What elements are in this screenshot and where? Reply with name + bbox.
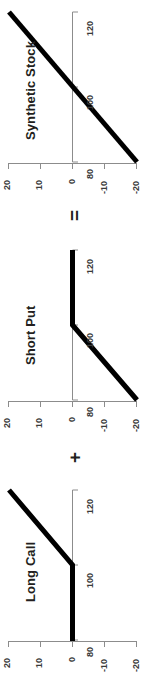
panel-1-price-label-100: 100: [86, 95, 95, 110]
panel-3-series-label: Long Call: [24, 542, 37, 602]
panel-long-call: Long Call 120 100 80 20 10 0 -10 -20: [0, 478, 161, 678]
panel-3-price-label-100: 100: [86, 573, 95, 588]
panel-synthetic-stock: Synthetic Stock 120 100 80 20 10 0 -10 -…: [0, 0, 161, 195]
panel-3-price-label-80: 80: [86, 647, 95, 657]
panel-2-payoff-label-neg10: -10: [100, 419, 109, 432]
panel-3-price-label-120: 120: [86, 499, 95, 514]
panel-2-payoff-label-0: 0: [68, 417, 77, 422]
figure-root: Synthetic Stock 120 100 80 20 10 0 -10 -…: [0, 0, 161, 678]
operator-plus: +: [65, 441, 84, 475]
panel-1-price-label-120: 120: [86, 21, 95, 36]
panel-3-payoff-label-neg20: -20: [132, 659, 141, 672]
panel-2-payoff-label-neg20: -20: [132, 419, 141, 432]
panel-2-series-label: Short Put: [24, 306, 37, 365]
panel-3-payoff-label-20: 20: [3, 658, 12, 668]
panel-short-put: Short Put 120 100 80 20 10 0 -10 -20: [0, 238, 161, 438]
payoff-curve-long-call: [9, 490, 73, 641]
panel-1-payoff-label-10: 10: [35, 180, 44, 190]
panel-1-payoff-label-20: 20: [3, 180, 12, 190]
panel-2-payoff-label-20: 20: [3, 418, 12, 428]
operator-equals: =: [65, 199, 84, 233]
panel-3-payoff-label-10: 10: [35, 658, 44, 668]
panel-3-payoff-label-0: 0: [68, 657, 77, 662]
payoff-curve-short-put: [73, 250, 138, 400]
panel-1-payoff-label-neg20: -20: [132, 181, 141, 194]
panel-2-payoff-label-10: 10: [35, 418, 44, 428]
panel-2-price-label-120: 120: [86, 259, 95, 274]
panel-1-price-label-80: 80: [86, 169, 95, 179]
panel-1-payoff-label-0: 0: [68, 179, 77, 184]
panel-2-price-label-80: 80: [86, 407, 95, 417]
panel-3-payoff-label-neg10: -10: [100, 659, 109, 672]
panel-1-series-label: Synthetic Stock: [24, 41, 37, 140]
panel-1-payoff-label-neg10: -10: [100, 181, 109, 194]
panel-2-price-label-100: 100: [86, 333, 95, 348]
